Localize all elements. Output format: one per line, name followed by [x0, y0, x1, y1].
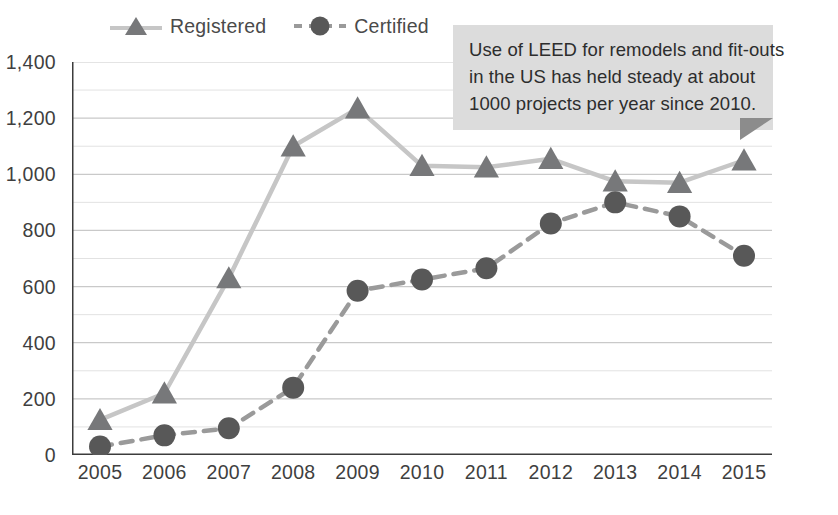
x-axis-tick-labels: 2005200620072008200920102011201220132014…	[72, 461, 772, 495]
data-point-registered-2005[interactable]	[87, 408, 112, 430]
callout-pointer-icon	[740, 118, 773, 140]
legend-item-certified[interactable]: Certified	[292, 15, 428, 38]
legend-item-registered[interactable]: Registered	[108, 15, 266, 38]
leed-projects-line-chart: Registered Certified 02004006008001,0001…	[0, 0, 838, 515]
y-axis-label-800: 800	[23, 219, 56, 242]
legend-label-registered: Registered	[170, 15, 266, 38]
data-point-certified-2006[interactable]	[153, 424, 175, 446]
y-axis-label-1400: 1,400	[6, 51, 56, 74]
data-point-certified-2007[interactable]	[218, 417, 240, 439]
y-axis-label-1000: 1,000	[6, 163, 56, 186]
leed-remodel-callout: Use of LEED for remodels and fit-outs in…	[453, 25, 773, 130]
registered-series-marker-icon	[108, 15, 164, 37]
series-line-certified	[100, 202, 744, 446]
chart-legend: Registered Certified	[108, 10, 429, 42]
y-axis-label-600: 600	[23, 275, 56, 298]
x-axis-label-2009: 2009	[335, 461, 380, 484]
x-axis-label-2013: 2013	[593, 461, 638, 484]
data-point-certified-2009[interactable]	[347, 280, 369, 302]
y-axis-label-400: 400	[23, 331, 56, 354]
x-axis-label-2011: 2011	[465, 461, 508, 484]
data-point-certified-2014[interactable]	[669, 205, 691, 227]
x-axis-label-2014: 2014	[657, 461, 702, 484]
data-point-certified-2008[interactable]	[282, 377, 304, 399]
data-point-certified-2012[interactable]	[540, 212, 562, 234]
data-point-certified-2011[interactable]	[475, 257, 497, 279]
x-axis-label-2012: 2012	[529, 461, 574, 484]
legend-label-certified: Certified	[354, 15, 428, 38]
certified-series-marker-icon	[292, 15, 348, 37]
data-point-certified-2015[interactable]	[733, 245, 755, 267]
callout-line-2: in the US has held steady at about	[469, 63, 757, 90]
x-axis-label-2006: 2006	[142, 461, 187, 484]
y-axis-label-1200: 1,200	[6, 107, 56, 130]
data-point-registered-2008[interactable]	[281, 134, 306, 156]
data-point-certified-2010[interactable]	[411, 269, 433, 291]
data-point-registered-2009[interactable]	[345, 96, 370, 118]
x-axis-label-2007: 2007	[207, 461, 252, 484]
data-point-certified-2005[interactable]	[89, 436, 111, 455]
data-point-certified-2013[interactable]	[604, 191, 626, 213]
y-axis-label-0: 0	[45, 444, 56, 467]
x-axis-label-2005: 2005	[78, 461, 123, 484]
callout-line-3: 1000 projects per year since 2010.	[469, 90, 757, 117]
x-axis-label-2010: 2010	[400, 461, 445, 484]
data-point-registered-2007[interactable]	[216, 266, 241, 288]
data-point-registered-2006[interactable]	[152, 381, 177, 403]
data-point-registered-2015[interactable]	[731, 148, 756, 170]
callout-line-1: Use of LEED for remodels and fit-outs	[469, 36, 757, 63]
y-axis-label-200: 200	[23, 387, 56, 410]
x-axis-label-2008: 2008	[271, 461, 316, 484]
x-axis-label-2015: 2015	[722, 461, 767, 484]
y-axis-tick-labels: 02004006008001,0001,2001,400	[0, 62, 66, 455]
